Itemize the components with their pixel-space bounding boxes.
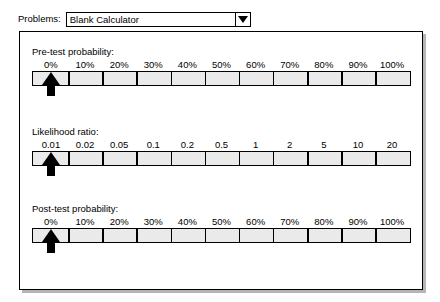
- pretest-tick-6: 60%: [246, 58, 265, 71]
- pretest-tick-8: 80%: [314, 58, 333, 71]
- lr-cell-divider-1: [102, 152, 104, 165]
- posttest-cell-divider-0: [68, 229, 70, 242]
- up-arrow-marker-stem: [47, 84, 55, 96]
- pretest-scale: 0%10%20%30%40%50%60%70%80%90%100%: [32, 58, 411, 86]
- lr-cell-divider-4: [205, 152, 207, 165]
- pretest-cell-divider-3: [171, 72, 173, 85]
- pretest-tick-9: 90%: [348, 58, 367, 71]
- lr-cell-divider-6: [273, 152, 275, 165]
- posttest-tick-5: 50%: [212, 215, 231, 228]
- pretest-tick-3: 30%: [144, 58, 163, 71]
- slider-group-posttest: Post-test probability: 0%10%20%30%40%50%…: [32, 203, 411, 243]
- up-arrow-marker-stem: [47, 241, 55, 253]
- posttest-tick-0: 0%: [44, 215, 58, 228]
- lr-cell-divider-9: [375, 152, 377, 165]
- up-arrow-marker-stem: [47, 164, 55, 176]
- posttest-cell-divider-7: [307, 229, 309, 242]
- slider-group-likelihood-ratio: Likelihood ratio: 0.010.020.050.10.20.51…: [32, 126, 411, 166]
- pretest-cell-divider-6: [273, 72, 275, 85]
- posttest-tick-1: 10%: [76, 215, 95, 228]
- problems-selected-value[interactable]: Blank Calculator: [67, 13, 235, 26]
- posttest-title: Post-test probability:: [32, 203, 411, 214]
- lr-cell-divider-7: [307, 152, 309, 165]
- pretest-slider-bar[interactable]: [32, 71, 411, 86]
- problems-label: Problems:: [18, 11, 61, 27]
- pretest-cell-divider-9: [375, 72, 377, 85]
- posttest-cell-divider-1: [102, 229, 104, 242]
- pretest-cell-divider-7: [307, 72, 309, 85]
- problems-row: Problems: Blank Calculator: [18, 11, 251, 27]
- posttest-tick-labels: 0%10%20%30%40%50%60%70%80%90%100%: [32, 215, 411, 228]
- lr-tick-2: 0.05: [110, 138, 129, 151]
- likelihood-ratio-tick-labels: 0.010.020.050.10.20.51251020: [32, 138, 411, 151]
- pretest-cell-divider-1: [102, 72, 104, 85]
- lr-tick-9: 10: [353, 138, 364, 151]
- posttest-tick-7: 70%: [280, 215, 299, 228]
- pretest-cell-divider-5: [239, 72, 241, 85]
- posttest-tick-9: 90%: [348, 215, 367, 228]
- lr-cell-divider-3: [171, 152, 173, 165]
- pretest-cell-divider-8: [341, 72, 343, 85]
- problems-select[interactable]: Blank Calculator: [66, 12, 251, 27]
- chevron-down-icon: [238, 16, 248, 23]
- pretest-cell-divider-0: [68, 72, 70, 85]
- posttest-cell-divider-8: [341, 229, 343, 242]
- lr-cell-divider-8: [341, 152, 343, 165]
- posttest-tick-6: 60%: [246, 215, 265, 228]
- pretest-cell-divider-4: [205, 72, 207, 85]
- lr-tick-1: 0.02: [76, 138, 95, 151]
- pretest-tick-7: 70%: [280, 58, 299, 71]
- posttest-tick-8: 80%: [314, 215, 333, 228]
- posttest-tick-4: 40%: [178, 215, 197, 228]
- likelihood-ratio-slider-bar[interactable]: [32, 151, 411, 166]
- pretest-tick-10: 100%: [380, 58, 404, 71]
- lr-tick-7: 2: [287, 138, 292, 151]
- posttest-tick-2: 20%: [110, 215, 129, 228]
- calculator-panel: Pre-test probability: 0%10%20%30%40%50%6…: [19, 31, 423, 290]
- pretest-title: Pre-test probability:: [32, 46, 411, 57]
- slider-group-pretest: Pre-test probability: 0%10%20%30%40%50%6…: [32, 46, 411, 86]
- posttest-tick-10: 100%: [380, 215, 404, 228]
- lr-tick-6: 1: [253, 138, 258, 151]
- posttest-marker[interactable]: [42, 229, 60, 253]
- posttest-tick-3: 30%: [144, 215, 163, 228]
- lr-cell-divider-2: [136, 152, 138, 165]
- posttest-cell-divider-3: [171, 229, 173, 242]
- likelihood-ratio-marker[interactable]: [42, 152, 60, 176]
- likelihood-ratio-scale: 0.010.020.050.10.20.51251020: [32, 138, 411, 166]
- lr-tick-8: 5: [321, 138, 326, 151]
- posttest-scale: 0%10%20%30%40%50%60%70%80%90%100%: [32, 215, 411, 243]
- pretest-tick-5: 50%: [212, 58, 231, 71]
- posttest-cell-divider-5: [239, 229, 241, 242]
- pretest-tick-4: 40%: [178, 58, 197, 71]
- likelihood-ratio-title: Likelihood ratio:: [32, 126, 411, 137]
- pretest-cell-divider-2: [136, 72, 138, 85]
- posttest-cell-divider-4: [205, 229, 207, 242]
- problems-dropdown-button[interactable]: [235, 13, 250, 26]
- pretest-marker[interactable]: [42, 72, 60, 96]
- posttest-cell-divider-9: [375, 229, 377, 242]
- pretest-tick-1: 10%: [76, 58, 95, 71]
- posttest-cell-divider-2: [136, 229, 138, 242]
- pretest-tick-0: 0%: [44, 58, 58, 71]
- lr-tick-3: 0.1: [147, 138, 160, 151]
- lr-cell-divider-0: [68, 152, 70, 165]
- pretest-tick-labels: 0%10%20%30%40%50%60%70%80%90%100%: [32, 58, 411, 71]
- lr-tick-5: 0.5: [215, 138, 228, 151]
- lr-tick-0: 0.01: [42, 138, 61, 151]
- posttest-cell-divider-6: [273, 229, 275, 242]
- lr-tick-10: 20: [387, 138, 398, 151]
- lr-cell-divider-5: [239, 152, 241, 165]
- pretest-tick-2: 20%: [110, 58, 129, 71]
- lr-tick-4: 0.2: [181, 138, 194, 151]
- posttest-slider-bar[interactable]: [32, 228, 411, 243]
